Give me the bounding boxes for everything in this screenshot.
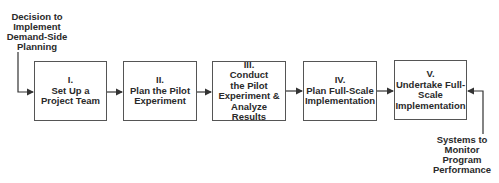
step-text: Implementation	[395, 101, 465, 112]
feedback-label: Systems to Monitor Program Performance	[425, 135, 499, 175]
step-3-box: III. Conduct the Pilot Experiment & Anal…	[212, 61, 286, 121]
step-text: Experiment	[134, 96, 186, 107]
step-text: Conduct	[230, 70, 269, 81]
step-2-box: II. Plan the Pilot Experiment	[123, 61, 197, 121]
step-numeral: V.	[426, 69, 434, 80]
step-text: Project Team	[41, 96, 100, 107]
input-label-line: Planning	[2, 42, 72, 52]
input-label: Decision to Implement Demand-Side Planni…	[2, 12, 72, 52]
step-1-box: I. Set Up a Project Team	[34, 61, 107, 121]
feedback-label-line: Performance	[425, 165, 499, 175]
step-5-box: V. Undertake Full- Scale Implementation	[394, 60, 467, 120]
step-4-box: IV. Plan Full-Scale Implementation	[303, 61, 377, 121]
step-text: Experiment &	[218, 91, 279, 102]
step-text: Results	[232, 112, 266, 123]
step-text: Scale	[418, 90, 443, 101]
step-text: Implementation	[305, 96, 375, 107]
